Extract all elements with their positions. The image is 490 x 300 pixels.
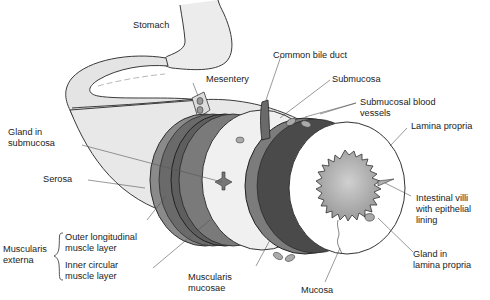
label-gland-in-lamina-propria: Gland in lamina propria [413,249,471,271]
label-muscularis-mucosae: Muscularis mucosae [188,272,232,294]
label-outer-longitudinal-muscle: Outer longitudinal muscle layer [65,232,137,254]
label-inner-circular-muscle: Inner circular muscle layer [65,260,118,282]
label-intestinal-villi: Intestinal villi with epithelial lining [416,193,471,226]
label-mucosa: Mucosa [301,285,333,296]
intestine-diagram: Stomach Mesentery Common bile duct Submu… [0,0,490,300]
